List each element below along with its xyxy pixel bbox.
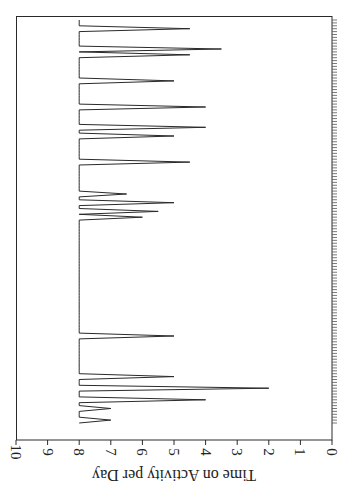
value-tick-label: 3 [229, 448, 245, 456]
y-axis-title: Time on Activity per Day [92, 466, 256, 484]
chart: 012345678910 Time on Activity per Day [0, 0, 353, 491]
value-tick-label: 10 [8, 445, 24, 460]
activity-series-line [79, 20, 269, 423]
y-axis-tick-labels: 012345678910 [8, 445, 340, 460]
value-tick-label: 9 [40, 448, 56, 456]
value-tick-label: 0 [324, 448, 340, 456]
y-axis-ticks [16, 440, 332, 445]
plot-frame [17, 17, 333, 441]
value-tick-label: 8 [71, 448, 87, 456]
value-tick-label: 4 [198, 448, 214, 456]
value-tick-label: 2 [261, 448, 277, 456]
value-tick-label: 1 [292, 448, 308, 456]
x-axis-ticks [332, 20, 337, 423]
value-tick-label: 5 [166, 448, 182, 456]
value-tick-label: 7 [103, 448, 119, 456]
value-tick-label: 6 [134, 448, 150, 456]
